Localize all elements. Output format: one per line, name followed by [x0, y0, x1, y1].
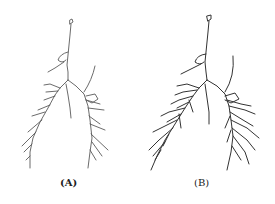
- panel-label-b: (B): [194, 177, 209, 188]
- airway-tree-a: [0, 0, 137, 180]
- figure: (A) (B): [0, 0, 275, 204]
- panel-label-a: (A): [60, 177, 77, 188]
- airway-tree-b: [137, 0, 275, 180]
